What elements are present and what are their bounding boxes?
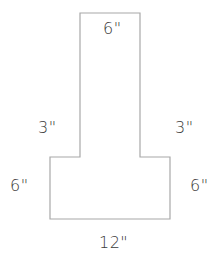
bottom-width-label: 12"	[99, 235, 128, 251]
right-step-label: 3"	[175, 120, 194, 136]
diagram-canvas: 6" 3" 3" 6" 6" 12"	[0, 0, 218, 266]
left-step-label: 3"	[38, 120, 57, 136]
t-shape-outline	[50, 13, 170, 219]
left-side-label: 6"	[10, 178, 29, 194]
right-side-label: 6"	[190, 178, 209, 194]
top-width-label: 6"	[103, 21, 122, 37]
